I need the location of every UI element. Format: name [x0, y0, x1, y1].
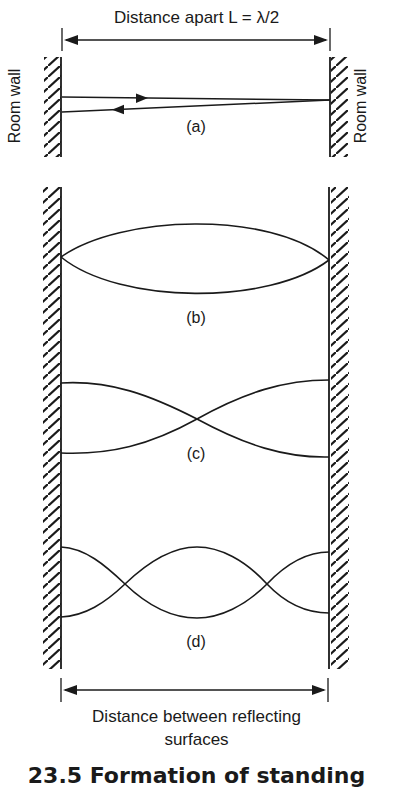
top-dimension-label: Distance apart L = λ/2 [0, 8, 393, 28]
wave-d [61, 547, 329, 618]
panel-label-a: (a) [166, 118, 226, 136]
panel-label-c: (c) [166, 445, 226, 463]
wave-b [61, 224, 329, 293]
bottom-dimension-label: Distance between reflecting surfaces [0, 705, 393, 751]
wall-right-main [329, 187, 349, 669]
wall-label-left: Room wall [6, 69, 24, 144]
reflected-ray [62, 100, 330, 114]
wall-left-a [44, 57, 61, 157]
figure-caption: 23.5 Formation of standing [0, 763, 393, 788]
bottom-dimension-label-line2: surfaces [0, 728, 393, 751]
bottom-dimension-arrow [61, 678, 328, 702]
bottom-dimension-label-line1: Distance between reflecting [0, 705, 393, 728]
panel-label-d: (d) [166, 633, 226, 651]
wall-label-right: Room wall [352, 69, 370, 144]
top-dimension-arrow [62, 28, 330, 51]
panel-label-b: (b) [166, 309, 226, 327]
wall-right-a [330, 57, 348, 157]
wall-left-main [43, 187, 61, 669]
